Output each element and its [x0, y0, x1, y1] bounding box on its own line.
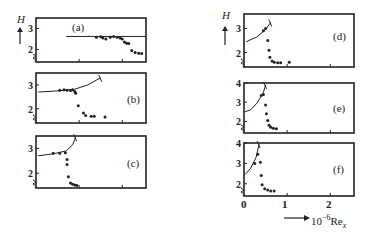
- panel-label-c: (c): [127, 158, 139, 169]
- data-point: [93, 115, 96, 118]
- data-point: [134, 51, 137, 54]
- y-tick-label: 4: [236, 138, 241, 149]
- y-tick-label: 2: [28, 104, 33, 115]
- data-point: [52, 152, 55, 155]
- panel-label-a: (a): [72, 22, 84, 33]
- data-point: [268, 56, 271, 59]
- panel-label-d: (d): [333, 31, 346, 42]
- data-point: [265, 112, 268, 115]
- data-point: [74, 92, 77, 95]
- data-point: [101, 36, 104, 39]
- data-point: [109, 36, 112, 39]
- data-point: [266, 39, 269, 42]
- data-point: [262, 29, 265, 32]
- data-point: [63, 88, 66, 91]
- data-point: [137, 52, 140, 55]
- data-point: [84, 114, 87, 117]
- data-point: [279, 61, 282, 64]
- x-label-sub: x: [343, 221, 347, 230]
- data-point: [288, 61, 291, 64]
- data-point: [262, 93, 265, 96]
- data-point: [75, 184, 78, 187]
- x-tick-1: 1: [282, 199, 288, 210]
- data-point: [130, 49, 133, 52]
- data-point: [260, 174, 263, 177]
- data-point: [266, 119, 269, 122]
- y-tick-label: 3: [236, 158, 241, 169]
- data-point: [253, 162, 256, 165]
- data-point: [266, 188, 269, 191]
- x-tick-0: 0: [241, 199, 247, 210]
- y-tick-label: 2: [236, 179, 241, 190]
- y-tick-label: 4: [236, 78, 241, 89]
- laminar-curve: [245, 144, 259, 175]
- data-point: [261, 183, 264, 186]
- data-point: [263, 187, 266, 190]
- data-point: [264, 104, 267, 107]
- data-point: [140, 52, 143, 55]
- data-point: [66, 163, 69, 166]
- data-point: [269, 189, 272, 192]
- data-point: [90, 115, 93, 118]
- x-label-var: Re: [331, 215, 343, 227]
- data-point: [116, 36, 119, 39]
- data-point: [82, 112, 85, 115]
- panel-label-b: (b): [127, 94, 140, 105]
- y-tick-label: 2: [28, 168, 33, 179]
- y-tick-label: 2: [28, 44, 33, 55]
- arrow-head-icon: [304, 215, 310, 221]
- data-point: [264, 27, 267, 30]
- data-point: [269, 126, 272, 129]
- data-point: [66, 89, 69, 92]
- laminar-curve: [38, 137, 75, 156]
- y-tick-label: 3: [236, 23, 241, 34]
- panel-frame: [36, 18, 146, 62]
- panel-label-e: (e): [333, 103, 345, 114]
- y-tick-label: 3: [28, 143, 33, 154]
- y-tick-label: 2: [236, 48, 241, 59]
- data-point: [121, 37, 124, 40]
- data-point: [58, 89, 61, 92]
- y-tick-label: 3: [236, 97, 241, 108]
- y-axis-label-left: H: [17, 14, 25, 25]
- figure-canvas: 23232323234234: [0, 0, 373, 232]
- data-point: [58, 152, 61, 155]
- x-label-base: 10: [311, 215, 322, 227]
- y-axis-label-right: H: [222, 10, 230, 21]
- data-point: [276, 61, 279, 64]
- data-point: [256, 153, 259, 156]
- panel-label-f: (f): [333, 164, 344, 175]
- data-point: [66, 158, 69, 161]
- x-label-exp: −6: [322, 213, 331, 222]
- data-point: [259, 161, 262, 164]
- data-point: [273, 61, 276, 64]
- data-point: [95, 36, 98, 39]
- data-point: [77, 104, 80, 107]
- data-point: [127, 42, 130, 45]
- x-axis-label: 10−6Rex: [311, 212, 346, 231]
- x-tick-2: 2: [326, 199, 332, 210]
- laminar-curve: [246, 22, 271, 41]
- data-point: [273, 189, 276, 192]
- laminar-curve: [245, 85, 266, 112]
- y-tick-label: 2: [236, 116, 241, 127]
- data-point: [268, 49, 271, 52]
- data-point: [272, 127, 275, 130]
- data-point: [112, 35, 115, 38]
- y-tick-label: 3: [28, 23, 33, 34]
- arrow-head-icon: [17, 27, 23, 32]
- data-point: [104, 116, 107, 119]
- y-tick-label: 3: [28, 80, 33, 91]
- arrow-head-icon: [222, 26, 228, 31]
- data-point: [67, 175, 70, 178]
- data-point: [104, 37, 107, 40]
- data-point: [64, 151, 67, 154]
- data-point: [275, 127, 278, 130]
